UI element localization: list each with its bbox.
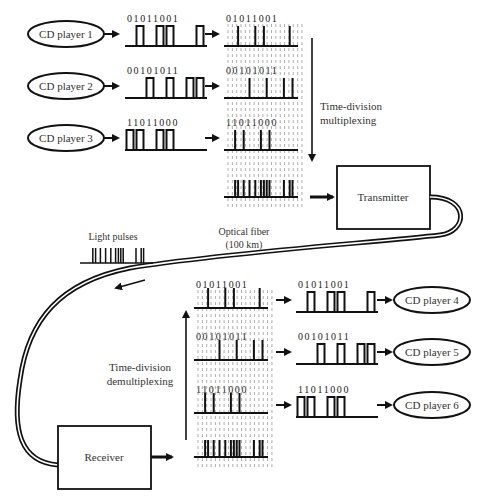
receiver-box: Receiver	[58, 426, 151, 489]
cd-player-4-label: CD player 4	[405, 294, 459, 306]
cd-player-5: CD player 5	[394, 339, 470, 365]
mux-pulse-trains	[224, 26, 298, 197]
demux-bits-1: 01011001	[196, 279, 248, 290]
cd-player-6: CD player 6	[394, 392, 470, 418]
demux-bits-2: 00101011	[196, 331, 248, 342]
receiver-label: Receiver	[84, 451, 123, 463]
fiber-label-2: (100 km)	[226, 239, 263, 251]
cd-player-1: CD player 1	[28, 21, 104, 47]
mux-bits-1: 01011001	[226, 13, 278, 24]
demux-label-1: Time-division	[109, 361, 171, 373]
input-bits-2: 00101011	[127, 65, 179, 76]
mux-label-1: Time-division	[320, 100, 382, 112]
cd-player-5-label: CD player 5	[405, 346, 459, 358]
light-pulses-label: Light pulses	[88, 231, 137, 242]
cd-player-3-label: CD player 3	[39, 132, 93, 144]
tdm-diagram: CD player 1 CD player 2 CD player 3 0101…	[0, 0, 488, 499]
demux-pulse-trains	[194, 288, 268, 457]
fiber-label-1: Optical fiber	[219, 226, 270, 237]
cd-player-3: CD player 3	[28, 125, 104, 151]
cd-player-1-label: CD player 1	[39, 28, 93, 40]
input-bits-3: 11011000	[127, 117, 179, 128]
cd-player-4: CD player 4	[394, 287, 470, 313]
cd-player-6-label: CD player 6	[405, 399, 459, 411]
mux-bits-3: 11011000	[226, 117, 278, 128]
demux-label-2: demultiplexing	[107, 375, 174, 387]
output-bits-1: 01011001	[298, 279, 350, 290]
input-waveforms	[125, 26, 207, 150]
mux-bits-2: 00101011	[226, 65, 278, 76]
fiber-direction-arrow	[116, 280, 145, 288]
mux-label-2: multiplexing	[320, 114, 377, 126]
transmitter-label: Transmitter	[358, 191, 409, 203]
output-waveforms	[296, 292, 378, 417]
output-bits-2: 00101011	[298, 331, 350, 342]
cd-player-2: CD player 2	[28, 73, 104, 99]
cd-player-2-label: CD player 2	[39, 80, 93, 92]
output-bits-3: 11011000	[298, 384, 350, 395]
light-pulses-train	[80, 248, 153, 263]
transmitter-box: Transmitter	[337, 166, 430, 229]
input-bits-1: 01011001	[127, 13, 179, 24]
